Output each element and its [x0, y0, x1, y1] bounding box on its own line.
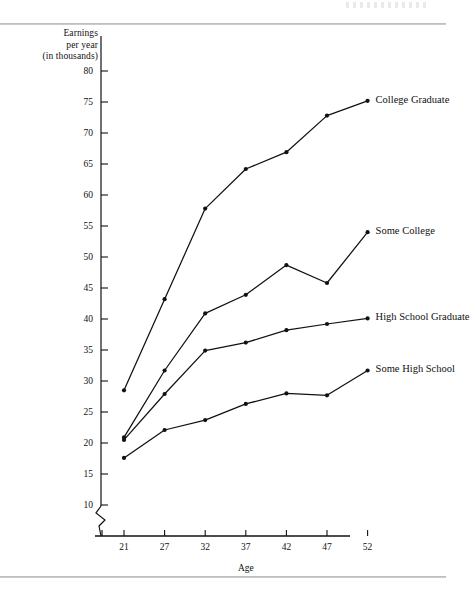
data-point-marker: [284, 328, 288, 332]
y-tick-label: 35: [59, 345, 93, 355]
series-label-2: High School Graduate: [376, 311, 470, 323]
data-point-marker: [325, 114, 329, 118]
data-point-marker: [325, 322, 329, 326]
y-tick-label: 50: [59, 252, 93, 262]
x-tick-label: 42: [271, 542, 301, 552]
data-point-marker: [122, 438, 126, 442]
data-point-marker: [163, 368, 167, 372]
y-tick-label: 55: [59, 221, 93, 231]
chart-axes: [95, 36, 368, 536]
y-tick-label: 30: [59, 376, 93, 386]
data-point-marker: [122, 388, 126, 392]
x-tick-label: 32: [190, 542, 220, 552]
x-tick-label: 52: [353, 542, 383, 552]
data-point-marker: [366, 368, 370, 372]
y-tick-label: 15: [59, 469, 93, 479]
x-axis-title: Age: [216, 563, 276, 573]
x-tick-label: 27: [150, 542, 180, 552]
data-point-marker: [325, 281, 329, 285]
y-tick-label: 80: [59, 66, 93, 76]
series-label-1: Some College: [376, 225, 435, 237]
data-point-marker: [284, 391, 288, 395]
y-tick-label: 10: [59, 500, 93, 510]
y-tick-label: 45: [59, 283, 93, 293]
data-point-marker: [163, 297, 167, 301]
data-point-marker: [366, 230, 370, 234]
data-point-marker: [203, 207, 207, 211]
series-line-0: [124, 101, 368, 391]
y-tick-label: 75: [59, 97, 93, 107]
x-tick-label: 37: [231, 542, 261, 552]
chart-series-layer: [122, 99, 370, 460]
x-tick-label: 21: [109, 542, 139, 552]
data-point-marker: [163, 392, 167, 396]
data-point-marker: [244, 402, 248, 406]
y-tick-label: 60: [59, 190, 93, 200]
data-point-marker: [284, 150, 288, 154]
data-point-marker: [366, 99, 370, 103]
data-point-marker: [122, 456, 126, 460]
y-tick-label: 65: [59, 159, 93, 169]
series-label-0: College Graduate: [376, 94, 450, 106]
y-tick-label: 25: [59, 407, 93, 417]
data-point-marker: [203, 311, 207, 315]
series-line-3: [124, 371, 368, 458]
data-point-marker: [203, 349, 207, 353]
data-point-marker: [244, 293, 248, 297]
y-axis-break-icon: [96, 506, 105, 536]
data-point-marker: [244, 341, 248, 345]
series-label-3: Some High School: [376, 363, 455, 375]
x-tick-label: 47: [312, 542, 342, 552]
y-tick-label: 20: [59, 438, 93, 448]
data-point-marker: [163, 428, 167, 432]
data-point-marker: [325, 393, 329, 397]
data-point-marker: [244, 167, 248, 171]
series-line-1: [124, 232, 368, 437]
data-point-marker: [203, 418, 207, 422]
series-line-2: [124, 318, 368, 440]
y-tick-label: 70: [59, 128, 93, 138]
y-tick-label: 40: [59, 314, 93, 324]
data-point-marker: [284, 263, 288, 267]
data-point-marker: [366, 316, 370, 320]
